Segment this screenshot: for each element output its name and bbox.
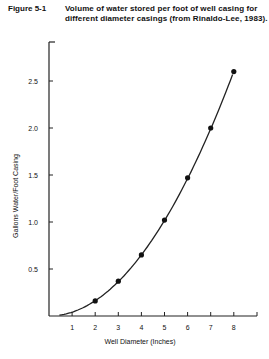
y-tick-label: 0.5 (28, 266, 38, 273)
x-axis-title: Well Diameter (Inches) (104, 338, 175, 346)
data-point (208, 125, 213, 130)
data-point (93, 298, 98, 303)
plot-area (59, 69, 236, 315)
x-tick-label: 3 (116, 324, 120, 331)
y-tick-label: 2.5 (28, 78, 38, 85)
chart: 123456780.51.01.52.02.5 Well Diameter (I… (0, 0, 269, 359)
x-tick-label: 7 (209, 324, 213, 331)
x-tick-label: 6 (186, 324, 190, 331)
y-axis-title: Gallons Water/Foot Casing (12, 154, 20, 238)
data-point (162, 218, 167, 223)
x-tick-label: 5 (163, 324, 167, 331)
data-point (231, 69, 236, 74)
data-point (116, 279, 121, 284)
axes: 123456780.51.01.52.02.5 (28, 42, 257, 331)
x-tick-label: 1 (70, 324, 74, 331)
x-tick-label: 2 (93, 324, 97, 331)
y-tick-label: 1.0 (28, 219, 38, 226)
series-line (59, 75, 232, 316)
y-tick-label: 2.0 (28, 125, 38, 132)
x-tick-label: 4 (139, 324, 143, 331)
data-point (139, 252, 144, 257)
data-point (185, 175, 190, 180)
y-tick-label: 1.5 (28, 172, 38, 179)
x-tick-label: 8 (232, 324, 236, 331)
